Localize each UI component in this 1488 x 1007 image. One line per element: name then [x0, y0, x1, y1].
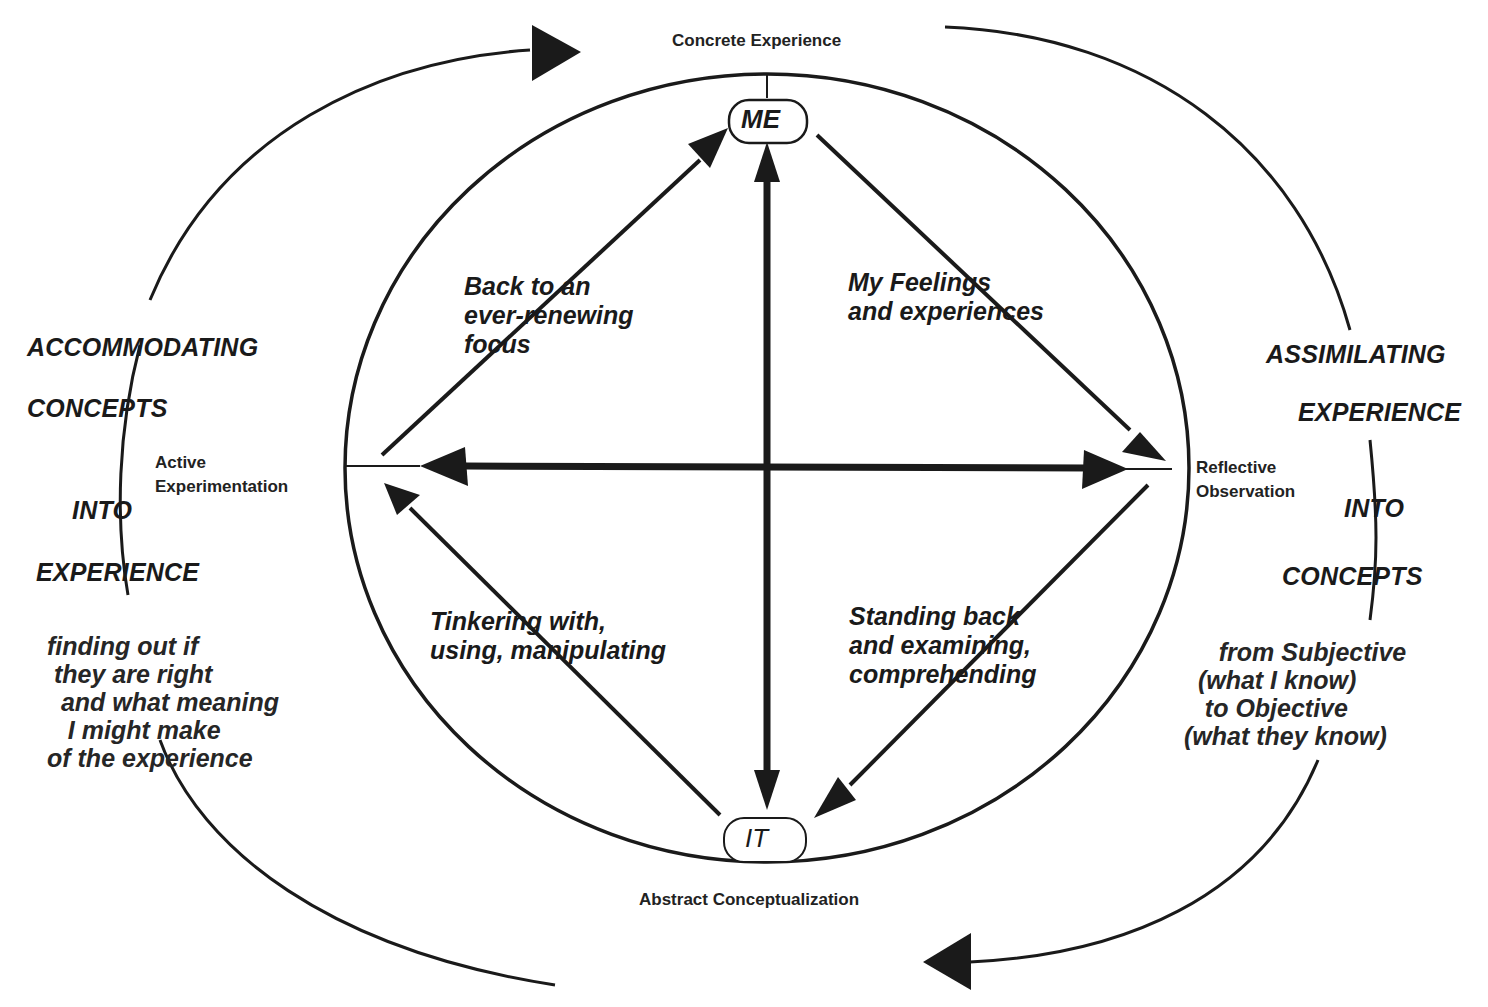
right-cycle-note: from Subjective (what I know) to Objecti…	[1184, 638, 1406, 750]
pole-concrete-experience: Concrete Experience	[672, 31, 841, 51]
left-cycle-note: finding out if they are right and what m…	[47, 632, 279, 772]
right-cycle-word-into: INTO	[1344, 494, 1404, 523]
pole-reflective-observation: Reflective Observation	[1196, 456, 1295, 504]
left-cycle-word-experience: EXPERIENCE	[36, 558, 199, 587]
caption-upper-right: My Feelings and experiences	[848, 268, 1044, 326]
caption-lower-right: Standing back and examining, comprehendi…	[849, 602, 1037, 689]
outer-arrowhead-top	[532, 25, 581, 81]
arrowhead-upper-right	[1122, 432, 1166, 461]
horizontal-axis	[465, 466, 1090, 468]
arrowhead-left	[420, 447, 468, 486]
right-cycle-word-assimilating: ASSIMILATING	[1266, 340, 1446, 369]
me-node-label: ME	[741, 105, 780, 135]
arrowhead-right	[1082, 450, 1128, 489]
left-cycle-word-into: INTO	[72, 496, 132, 525]
right-cycle-word-experience: EXPERIENCE	[1298, 398, 1461, 427]
pole-abstract-conceptualization: Abstract Conceptualization	[639, 890, 859, 910]
arrowhead-down	[754, 770, 780, 810]
pole-active-experimentation: Active Experimentation	[155, 451, 288, 499]
arrowhead-up	[754, 142, 780, 182]
arrowhead-upper-left	[688, 128, 728, 168]
outer-arrowhead-bottom	[923, 933, 971, 990]
it-node-label: IT	[745, 824, 768, 854]
outer-arc-right	[945, 27, 1376, 962]
outer-arc-left	[120, 50, 555, 985]
caption-upper-left: Back to an ever-renewing focus	[464, 272, 634, 359]
caption-lower-left: Tinkering with, using, manipulating	[430, 607, 666, 665]
left-cycle-word-accommodating: ACCOMMODATING	[27, 333, 258, 362]
left-cycle-word-concepts: CONCEPTS	[27, 394, 168, 423]
right-cycle-word-concepts: CONCEPTS	[1282, 562, 1423, 591]
